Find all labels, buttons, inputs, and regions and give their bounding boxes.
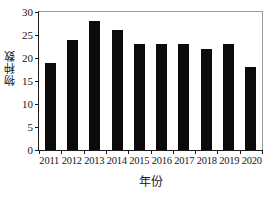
bar [201,49,212,150]
x-tick-label: 2019 [218,154,241,167]
y-tick-label: 0 [28,143,34,157]
x-tick-label: 2017 [173,154,196,167]
x-tick-label: 2014 [106,154,129,167]
bar-slot [61,12,83,150]
x-tick-label: 2015 [128,154,151,167]
plot-area: 051015202530 [38,11,263,151]
bar-slot [106,12,128,150]
x-tick-label: 2013 [83,154,106,167]
y-axis-title: 物种数 [4,50,18,86]
bar [156,44,167,150]
bar [45,63,56,150]
bar [112,30,123,150]
x-tick-label: 2016 [151,154,174,167]
bar [178,44,189,150]
y-tick-label: 15 [22,74,33,88]
y-tick-label: 30 [22,5,33,19]
bar [89,21,100,150]
bar-slot [39,12,61,150]
bar-slot [195,12,217,150]
bar-chart-figure: 物种数 051015202530 20112012201320142015201… [0,0,273,197]
bar [245,67,256,150]
x-tick-label: 2020 [241,154,264,167]
bar [67,40,78,150]
bar-slot [84,12,106,150]
x-axis-tick-labels: 2011201220132014201520162017201820192020 [38,154,263,167]
y-tick-label: 10 [22,97,33,111]
bar-slot [173,12,195,150]
bar-slot [128,12,150,150]
bar-slot [150,12,172,150]
y-tick-label: 20 [22,51,33,65]
x-tick-label: 2012 [61,154,84,167]
x-axis-title: 年份 [38,172,263,190]
bar [134,44,145,150]
bar-slot [240,12,262,150]
y-tick-label: 5 [28,120,34,134]
bar-slot [217,12,239,150]
y-tick-label: 25 [22,28,33,42]
x-tick-label: 2011 [38,154,61,167]
bar-series [39,12,262,150]
x-tick-label: 2018 [196,154,219,167]
bar [223,44,234,150]
